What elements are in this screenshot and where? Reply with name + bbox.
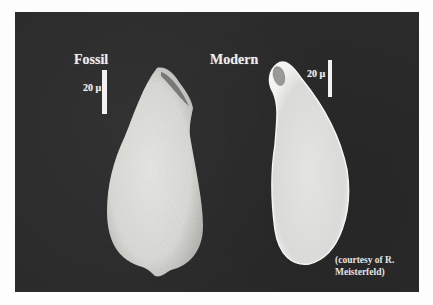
credit-line-2: Meisterfeld)	[335, 266, 385, 278]
micrograph-panel: Fossil 20 µ Modern 20 µ	[15, 12, 419, 292]
modern-title: Modern	[210, 52, 258, 68]
modern-specimen	[257, 60, 357, 270]
credit-line-1: (courtesy of R.	[335, 254, 394, 266]
fossil-specimen	[95, 66, 215, 281]
